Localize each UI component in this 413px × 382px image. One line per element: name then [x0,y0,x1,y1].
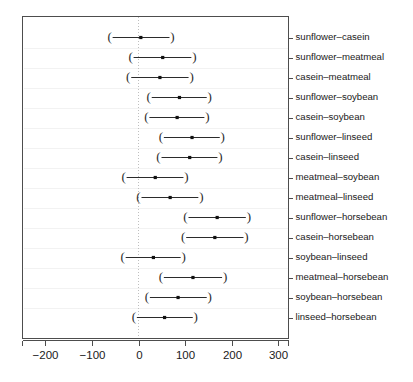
row-label: sunflower–meatmeal [296,51,385,62]
interval-lower-cap: ( [183,209,187,224]
row-label: soybean–horsebean [296,291,383,302]
interval-estimate-point [152,256,155,259]
interval-estimate-point [213,236,216,239]
interval-estimate-point [169,196,172,199]
interval-lower-cap: ( [121,169,125,184]
row-label: casein–soybean [296,111,365,122]
x-tick-label: −100 [80,349,106,361]
interval-upper-cap: ) [192,49,196,64]
interval-estimate-point [191,276,194,279]
interval-estimate-point [163,316,166,319]
interval-upper-cap: ) [208,89,212,104]
interval-upper-cap: ) [194,309,198,324]
interval-upper-cap: ) [221,129,225,144]
interval-estimate-point [190,136,193,139]
interval-upper-cap: ) [223,269,227,284]
row-label: meatmeal–linseed [296,191,374,202]
interval-upper-cap: ) [218,149,222,164]
interval-lower-cap: ( [147,89,151,104]
interval-estimate-point [161,56,164,59]
interval-lower-cap: ( [145,289,149,304]
row-label: sunflower–soybean [296,91,379,102]
interval-lower-cap: ( [159,129,163,144]
row-label: sunflower–linseed [296,131,373,142]
interval-lower-cap: ( [181,229,185,244]
interval-upper-cap: ) [247,209,251,224]
interval-estimate-point [176,296,179,299]
interval-upper-cap: ) [205,109,209,124]
x-tick-label: 100 [176,349,195,361]
row-label: meatmeal–horsebean [296,271,389,282]
row-label: soybean–linseed [296,251,368,262]
interval-upper-cap: ) [189,69,193,84]
interval-lower-cap: ( [126,69,130,84]
tukey-hsd-plot: ()()()()()()()()()()()()()()() −200−1000… [0,0,413,382]
interval-lower-cap: ( [121,249,125,264]
interval-lower-cap: ( [132,309,136,324]
interval-lower-cap: ( [144,109,148,124]
interval-upper-cap: ) [181,249,185,264]
interval-lower-cap: ( [107,29,111,44]
row-label: casein–horsebean [296,231,374,242]
interval-upper-cap: ) [208,289,212,304]
row-label: meatmeal–soybean [296,171,380,182]
x-tick-label: 200 [223,349,242,361]
interval-estimate-point [216,216,219,219]
interval-estimate-point [158,76,161,79]
interval-estimate-point [139,36,142,39]
interval-estimate-point [188,156,191,159]
x-tick-label: −200 [33,349,59,361]
interval-lower-cap: ( [128,49,132,64]
interval-estimate-point [154,176,157,179]
row-label: casein–meatmeal [296,71,371,82]
plot-canvas: ()()()()()()()()()()()()()()() −200−1000… [0,0,413,382]
interval-estimate-point [178,96,181,99]
row-label: casein–linseed [296,151,359,162]
row-label: sunflower–casein [296,31,370,42]
x-tick-label: 300 [269,349,288,361]
interval-lower-cap: ( [156,149,160,164]
row-label: linseed–horsebean [296,311,377,322]
interval-upper-cap: ) [184,169,188,184]
interval-lower-cap: ( [159,269,163,284]
interval-lower-cap: ( [136,189,140,204]
x-tick-label: 0 [136,349,142,361]
interval-upper-cap: ) [170,29,174,44]
interval-estimate-point [176,116,179,119]
interval-upper-cap: ) [244,229,248,244]
row-label: sunflower–horsebean [296,211,388,222]
interval-upper-cap: ) [199,189,203,204]
